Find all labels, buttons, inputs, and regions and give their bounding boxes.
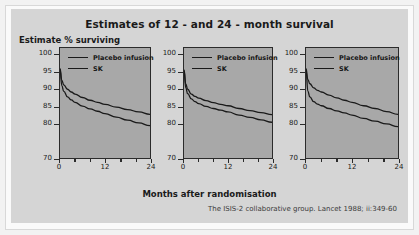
x-tick-mark bbox=[90, 159, 91, 162]
x-tick-label: 24 bbox=[269, 163, 278, 171]
y-tick-label: 85 bbox=[289, 102, 298, 110]
x-tick-label: 24 bbox=[147, 163, 156, 171]
series-line-sk bbox=[306, 70, 398, 127]
y-tick-1-95: 95 bbox=[33, 72, 59, 73]
legend-label-placebo: Placebo infusion bbox=[217, 54, 278, 62]
x-axis-1: 01224 bbox=[59, 159, 151, 181]
y-tick-2-95: 95 bbox=[157, 72, 183, 73]
y-tick-1-70: 70 bbox=[33, 159, 59, 160]
figure-container: Estimates of 12 - and 24 - month surviva… bbox=[0, 0, 419, 235]
y-tick-label: 70 bbox=[289, 154, 298, 162]
legend-item-sk: SK bbox=[314, 64, 400, 73]
x-axis-3: 01224 bbox=[305, 159, 399, 181]
legend-label-sk: SK bbox=[217, 65, 227, 73]
x-tick-mark bbox=[383, 159, 384, 162]
x-tick-mark bbox=[213, 159, 214, 162]
x-tick-mark bbox=[321, 159, 322, 162]
slide-panel: Estimates of 12 - and 24 - month surviva… bbox=[11, 9, 408, 223]
y-tick-3-80: 80 bbox=[279, 124, 305, 125]
x-tick-label: 12 bbox=[224, 163, 233, 171]
y-tick-label: 90 bbox=[289, 84, 298, 92]
x-tick-mark bbox=[368, 159, 369, 162]
legend-label-sk: SK bbox=[93, 65, 103, 73]
y-axis-1: 7080859095100 bbox=[33, 47, 59, 159]
y-tick-label: 70 bbox=[43, 154, 52, 162]
y-tick-3-85: 85 bbox=[279, 107, 305, 108]
x-tick-mark bbox=[258, 159, 259, 162]
page-title: Estimates of 12 - and 24 - month surviva… bbox=[11, 18, 408, 30]
y-tick-label: 100 bbox=[285, 49, 298, 57]
y-tick-label: 70 bbox=[167, 154, 176, 162]
x-tick-mark bbox=[336, 159, 337, 162]
x-tick-label: 0 bbox=[181, 163, 185, 171]
y-tick-1-90: 90 bbox=[33, 89, 59, 90]
series-line-sk bbox=[60, 69, 150, 125]
legend-label-placebo: Placebo infusion bbox=[339, 54, 400, 62]
y-axis-label: Estimate % surviving bbox=[19, 35, 120, 45]
x-axis-2: 01224 bbox=[183, 159, 273, 181]
x-tick-label: 12 bbox=[101, 163, 110, 171]
x-tick-label: 24 bbox=[395, 163, 404, 171]
legend-label-sk: SK bbox=[339, 65, 349, 73]
legend-line-icon bbox=[68, 68, 88, 70]
y-tick-3-70: 70 bbox=[279, 159, 305, 160]
legend-item-placebo: Placebo infusion bbox=[314, 53, 400, 62]
y-tick-label: 95 bbox=[43, 67, 52, 75]
x-tick-mark bbox=[136, 159, 137, 162]
plot-area-3: Placebo infusion SK bbox=[305, 47, 399, 159]
plot-area-1: Placebo infusion SK bbox=[59, 47, 151, 159]
x-tick-mark bbox=[120, 159, 121, 162]
y-axis-2: 7080859095100 bbox=[157, 47, 183, 159]
y-axis-3: 7080859095100 bbox=[279, 47, 305, 159]
y-tick-label: 85 bbox=[43, 102, 52, 110]
y-tick-3-95: 95 bbox=[279, 72, 305, 73]
legend-3: Placebo infusion SK bbox=[314, 53, 400, 75]
y-tick-label: 100 bbox=[163, 49, 176, 57]
series-line-sk bbox=[184, 71, 272, 123]
chart-panel-1: 7080859095100 Placebo infusion SK 01224 bbox=[33, 47, 151, 181]
x-tick-mark bbox=[243, 159, 244, 162]
y-tick-1-80: 80 bbox=[33, 124, 59, 125]
y-tick-label: 100 bbox=[39, 49, 52, 57]
y-tick-label: 90 bbox=[43, 84, 52, 92]
series-line-placebo-infusion bbox=[184, 70, 272, 115]
y-tick-1-85: 85 bbox=[33, 107, 59, 108]
legend-line-icon bbox=[314, 68, 334, 70]
y-tick-label: 95 bbox=[289, 67, 298, 75]
y-tick-3-100: 100 bbox=[279, 54, 305, 55]
y-tick-label: 85 bbox=[167, 102, 176, 110]
chart-panel-3: 7080859095100 Placebo infusion SK 01224 bbox=[279, 47, 399, 181]
y-tick-label: 80 bbox=[289, 119, 298, 127]
x-tick-label: 0 bbox=[57, 163, 61, 171]
series-line-placebo-infusion bbox=[60, 69, 150, 115]
y-tick-3-90: 90 bbox=[279, 89, 305, 90]
legend-item-sk: SK bbox=[68, 64, 154, 73]
y-tick-label: 80 bbox=[167, 119, 176, 127]
chart-panel-2: 7080859095100 Placebo infusion SK 01224 bbox=[157, 47, 273, 181]
legend-item-placebo: Placebo infusion bbox=[68, 53, 154, 62]
y-tick-label: 80 bbox=[43, 119, 52, 127]
x-axis-label: Months after randomisation bbox=[11, 189, 408, 199]
series-line-placebo-infusion bbox=[306, 69, 398, 115]
legend-line-icon bbox=[68, 57, 88, 59]
legend-item-sk: SK bbox=[192, 64, 278, 73]
y-tick-2-80: 80 bbox=[157, 124, 183, 125]
x-tick-mark bbox=[74, 159, 75, 162]
y-tick-2-85: 85 bbox=[157, 107, 183, 108]
legend-line-icon bbox=[192, 57, 212, 59]
y-tick-2-100: 100 bbox=[157, 54, 183, 55]
legend-label-placebo: Placebo infusion bbox=[93, 54, 154, 62]
legend-item-placebo: Placebo infusion bbox=[192, 53, 278, 62]
y-tick-2-90: 90 bbox=[157, 89, 183, 90]
legend-line-icon bbox=[314, 57, 334, 59]
y-tick-label: 90 bbox=[167, 84, 176, 92]
x-tick-mark bbox=[198, 159, 199, 162]
x-tick-label: 0 bbox=[303, 163, 307, 171]
legend-line-icon bbox=[192, 68, 212, 70]
plot-area-2: Placebo infusion SK bbox=[183, 47, 273, 159]
y-tick-label: 95 bbox=[167, 67, 176, 75]
y-tick-2-70: 70 bbox=[157, 159, 183, 160]
legend-1: Placebo infusion SK bbox=[68, 53, 154, 75]
x-tick-label: 12 bbox=[348, 163, 357, 171]
y-tick-1-100: 100 bbox=[33, 54, 59, 55]
